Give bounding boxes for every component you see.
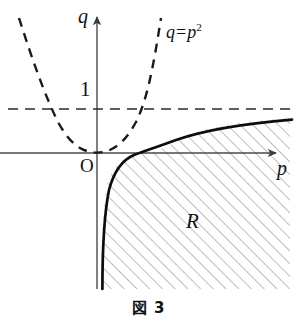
x-axis-label: p xyxy=(277,158,287,178)
y-tick-label-one: 1 xyxy=(80,79,91,100)
parabola-label-exponent: 2 xyxy=(196,21,202,33)
figure-caption: 図 3 xyxy=(0,296,297,317)
figure-container: q p O 1 R q=p2 図 3 xyxy=(0,0,297,323)
parabola-label-lhs: q xyxy=(166,22,175,42)
plot-canvas xyxy=(0,0,297,323)
parabola-equation-label: q=p2 xyxy=(166,23,202,41)
parabola-label-rhs: p xyxy=(187,22,196,42)
origin-label: O xyxy=(80,156,94,175)
region-label-R: R xyxy=(186,211,199,232)
parabola-label-equals: = xyxy=(175,22,187,42)
y-axis-label: q xyxy=(78,6,88,26)
